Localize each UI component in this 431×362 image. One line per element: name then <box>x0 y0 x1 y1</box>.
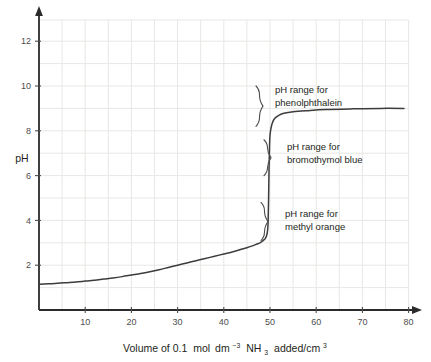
y-axis-arrow <box>35 6 43 16</box>
annotation-bromothymol-blue-line1: pH range for <box>287 141 340 152</box>
x-axis-title-sup-1: −3 <box>233 342 241 349</box>
y-tick-label-6: 6 <box>26 171 31 181</box>
bracket-phenolphthalein <box>256 86 263 126</box>
x-tick-label-80: 80 <box>404 317 414 327</box>
x-axis-title-part-4: NH <box>246 342 261 354</box>
y-tick-label-4: 4 <box>26 216 31 226</box>
x-axis-title-sub-1: 3 <box>264 349 268 356</box>
annotation-phenolphthalein-line2: phenolphthalein <box>275 97 342 108</box>
x-axis-title-part-1: Volume of 0.1 <box>123 342 187 354</box>
y-tick-label-2: 2 <box>26 260 31 270</box>
y-tick-label-12: 12 <box>21 36 31 46</box>
titration-chart: 2 4 6 8 10 12 pH 10 20 30 40 50 60 7 <box>0 0 431 362</box>
x-axis-title-part-3: dm <box>215 342 230 354</box>
y-tick-label-10: 10 <box>21 81 31 91</box>
annotation-methyl-orange-line2: methyl orange <box>285 221 345 232</box>
y-axis-title: pH <box>15 152 28 164</box>
annotation-methyl-orange-line1: pH range for <box>285 208 338 219</box>
axes <box>35 6 422 314</box>
annotation-phenolphthalein-line1: pH range for <box>275 84 328 95</box>
x-axis-title-sup-2: 3 <box>323 342 327 349</box>
x-axis-title-part-5: added/cm <box>274 342 320 354</box>
titration-curve <box>39 108 404 284</box>
x-tick-label-20: 20 <box>126 317 136 327</box>
x-tick-label-70: 70 <box>357 317 367 327</box>
annotation-labels: pH range for phenolphthalein pH range fo… <box>275 84 363 232</box>
x-tick-label-50: 50 <box>265 317 275 327</box>
x-axis-title: Volume of 0.1 mol dm −3 NH 3 added/cm 3 <box>123 338 327 357</box>
x-tick-label-30: 30 <box>173 317 183 327</box>
annotation-bromothymol-blue-line2: bromothymol blue <box>287 154 363 165</box>
x-axis-arrow <box>412 306 422 314</box>
chart-canvas: 2 4 6 8 10 12 pH 10 20 30 40 50 60 7 <box>0 0 431 362</box>
x-tick-label-10: 10 <box>80 317 90 327</box>
x-axis-title-part-2: mol <box>193 342 210 354</box>
x-tick-label-60: 60 <box>311 317 321 327</box>
grid-lines <box>39 20 409 310</box>
y-tick-label-8: 8 <box>26 126 31 136</box>
x-axis-tick-labels: 10 20 30 40 50 60 70 80 <box>80 317 413 327</box>
x-tick-label-40: 40 <box>219 317 229 327</box>
